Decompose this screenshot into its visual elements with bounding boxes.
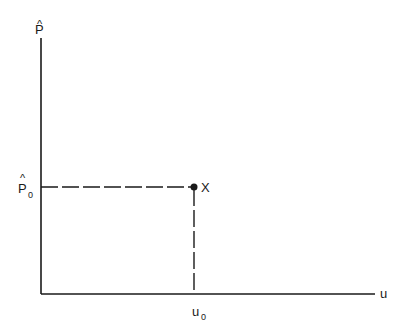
- y-tick-label: P: [18, 181, 27, 196]
- diagram-canvas: ^ P u ^ P 0 u 0 X: [0, 0, 410, 336]
- x-axis-label: u: [380, 286, 387, 301]
- x-tick-label: u: [192, 304, 199, 319]
- x-tick-label-subscript: 0: [201, 312, 206, 322]
- point-x-marker: [191, 184, 198, 191]
- y-tick-label-subscript: 0: [28, 190, 33, 200]
- y-axis-label: P: [35, 22, 44, 37]
- point-label: X: [201, 180, 210, 195]
